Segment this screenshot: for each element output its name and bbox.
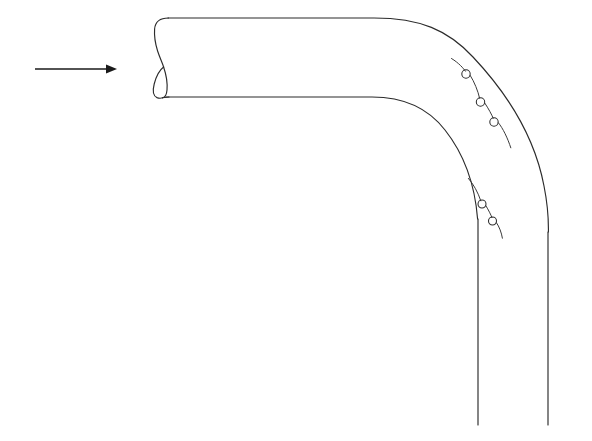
pipe-bottom-wall — [166, 97, 478, 219]
streakline-inner-seg-2 — [486, 206, 492, 218]
inlet-bottom-join — [163, 97, 169, 98]
flow-arrow-head — [106, 65, 117, 74]
pipe-flow-diagram — [0, 0, 592, 441]
vortex-marker-3 — [490, 118, 498, 126]
vortex-marker-2 — [476, 98, 484, 106]
streakline-outer-path — [452, 59, 466, 72]
streakline-outer-seg-3 — [485, 103, 493, 118]
streakline-outer-tail — [498, 123, 510, 148]
inlet-fold-curve — [154, 18, 168, 67]
streakline-outer-seg-2 — [470, 75, 479, 98]
flow-arrow — [35, 65, 117, 74]
inlet-opening-left-edge — [153, 67, 163, 98]
vortex-marker-1 — [462, 70, 470, 78]
pipe-outer-wall — [168, 18, 548, 425]
streakline-outer — [452, 59, 511, 148]
pipe-inner-wall — [166, 97, 478, 425]
vortex-marker-4 — [478, 200, 486, 208]
streakline-inner — [468, 178, 502, 238]
vortex-marker-5 — [489, 217, 497, 225]
streakline-inner-tail — [496, 223, 502, 239]
figure-root — [0, 0, 592, 441]
pipe-inlet-end — [153, 18, 169, 98]
inlet-opening-right-edge — [163, 67, 168, 98]
